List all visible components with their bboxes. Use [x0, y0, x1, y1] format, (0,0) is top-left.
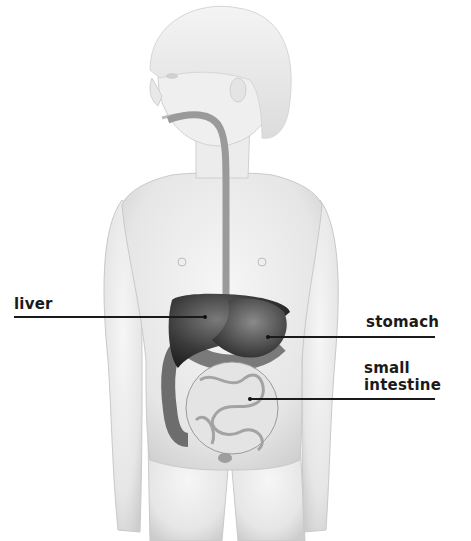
eye — [166, 73, 178, 79]
leader-line-small-intestine — [250, 398, 435, 400]
child-figure-illustration — [0, 0, 471, 541]
appendix — [218, 453, 232, 463]
label-small-intestine-line2: intestine — [364, 377, 441, 394]
leader-line-liver — [14, 316, 206, 318]
label-stomach: stomach — [366, 314, 439, 331]
digestive-system-diagram: liver stomach small intestine — [0, 0, 471, 541]
leader-line-stomach — [268, 336, 435, 338]
pointer-dot-stomach — [266, 335, 270, 339]
pointer-dot-liver — [203, 315, 207, 319]
label-liver: liver — [14, 296, 53, 313]
ear — [230, 78, 246, 102]
label-small-intestine-line1: small — [364, 360, 410, 377]
pointer-dot-small-intestine — [248, 397, 252, 401]
